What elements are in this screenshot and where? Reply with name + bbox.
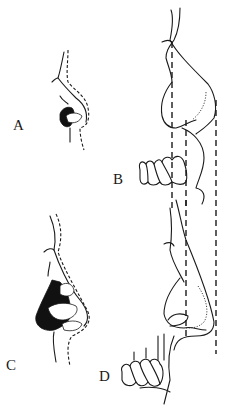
panel-label-b: B [113, 172, 123, 187]
panel-d-teeth-divider-2 [140, 364, 148, 382]
panel-c-base-line [48, 262, 50, 276]
figure-drawing [0, 0, 226, 414]
panel-a-ala-line [60, 96, 68, 104]
panel-c-drawing [36, 214, 89, 366]
panel-b-face-outline [170, 10, 216, 134]
panel-d-jaw-line [140, 387, 170, 392]
panel-d-upper-teeth [122, 359, 163, 386]
medical-figure: A B C D [0, 0, 226, 414]
panel-label-a: A [13, 118, 24, 133]
panel-a-nostril-inner [66, 113, 82, 123]
panel-c-nostril-lower [62, 321, 82, 331]
panel-d-dotted-contour [186, 286, 207, 328]
panel-b-teeth-divider-1 [146, 164, 148, 182]
panel-d-teeth-divider-3 [150, 362, 160, 384]
panel-c-ala [60, 283, 74, 296]
panel-a-brow-tick [52, 78, 58, 82]
panel-b-teeth-divider-3 [162, 162, 172, 182]
panel-b-teeth-divider-2 [154, 164, 160, 182]
panel-d-lip [164, 336, 174, 404]
panel-b-drawing [139, 8, 216, 210]
panel-d-inner-outline [170, 208, 184, 282]
panel-b-dotted-contour [192, 92, 206, 120]
panel-b-nose-lower [161, 82, 196, 128]
panel-d-nostril [168, 314, 188, 326]
panel-d-drawing [122, 200, 216, 404]
panel-label-c: C [6, 358, 16, 373]
panel-c-brow-tick [44, 249, 54, 252]
panel-label-d: D [99, 369, 110, 384]
panel-d-teeth-divider-1 [130, 366, 136, 382]
panel-b-upper-teeth [139, 156, 186, 185]
panel-a-drawing [52, 50, 89, 150]
panel-c-lip-line [53, 332, 56, 362]
panel-d-brow-tick [164, 243, 174, 246]
